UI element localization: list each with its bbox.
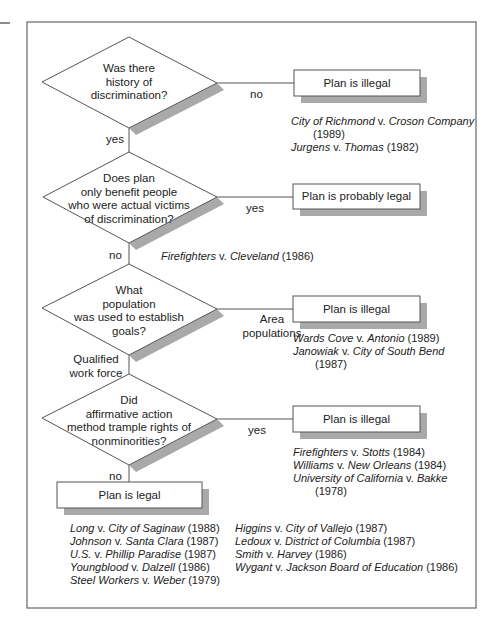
case-party-a: University of California: [293, 472, 403, 484]
case-citation: Janowiak v. City of South Bend: [293, 345, 444, 359]
outcome-2-label: Plan is probably legal: [293, 184, 420, 209]
case-party-b: Harvey: [277, 548, 312, 560]
decision-3-line: What: [59, 284, 199, 298]
case-party-b: District of Columbia: [285, 535, 380, 547]
case-year: (1987): [293, 358, 347, 372]
case-year: (1978): [293, 485, 347, 499]
case-versus: v.: [272, 522, 286, 534]
outcome-3-label: Plan is illegal: [293, 296, 420, 322]
case-party-a: Williams: [293, 459, 334, 471]
decision-2-text: Does plan only benefit people who were a…: [59, 172, 199, 226]
case-citation: City of Richmond v. Croson Company: [291, 115, 474, 129]
case-year: (1986): [175, 561, 210, 573]
decision-4-line: Did: [54, 394, 204, 408]
edge-label-d4-no: no: [109, 470, 122, 484]
outcome-1-label: Plan is illegal: [294, 70, 420, 96]
edge-label-d1-yes: yes: [106, 133, 124, 147]
case-party-b: City of Vallejo: [286, 522, 353, 534]
case-party-a: Wards Cove: [293, 332, 353, 344]
edge-label-d3-qualified-work-force: Qualified work force: [66, 353, 126, 380]
case-party-b: City of South Bend: [353, 345, 445, 357]
case-versus: v.: [91, 548, 105, 560]
edge-label-line: Qualified: [66, 353, 126, 367]
case-citation: Ledoux v. District of Columbia (1987): [235, 535, 415, 549]
case-citation: Steel Workers v. Weber (1979): [70, 574, 220, 588]
case-year: (1984): [390, 446, 425, 458]
case-year: (1987): [380, 535, 415, 547]
case-versus: v.: [139, 574, 153, 586]
case-party-a: U.S.: [70, 548, 91, 560]
case-citation: Long v. City of Saginaw (1988): [70, 522, 220, 536]
case-citation: U.S. v. Phillip Paradise (1987): [70, 548, 216, 562]
case-versus: v.: [112, 535, 126, 547]
case-year: (1982): [384, 141, 419, 153]
case-party-a: City of Richmond: [291, 115, 375, 127]
edge-label-d4-yes: yes: [248, 424, 266, 438]
case-citation: Higgins v. City of Vallejo (1987): [235, 522, 387, 536]
decision-1-text: Was there history of discrimination?: [69, 62, 189, 103]
edge-label-d2-no: no: [109, 249, 122, 263]
decision-3-line: goals?: [59, 325, 199, 339]
decision-3-line: was used to establish: [59, 311, 199, 325]
outcome-4-label: Plan is illegal: [293, 406, 420, 432]
case-party-b: New Orleans: [348, 459, 412, 471]
case-versus: v.: [339, 345, 353, 357]
case-versus: v.: [271, 535, 285, 547]
decision-1-line: discrimination?: [69, 89, 189, 103]
outcome-5-label: Plan is legal: [57, 482, 202, 508]
decision-2-line: who were actual victims: [59, 199, 199, 213]
case-year: (1987): [352, 522, 387, 534]
decision-3-line: population: [59, 298, 199, 312]
edge-label-line: work force: [66, 367, 126, 381]
case-party-b: Phillip Paradise: [105, 548, 181, 560]
case-year: (1986): [279, 250, 314, 262]
case-year: (1988): [185, 522, 220, 534]
case-versus: v.: [334, 459, 348, 471]
case-party-b: Cleveland: [230, 250, 279, 262]
case-party-b: Weber: [153, 574, 185, 586]
case-versus: v.: [94, 522, 108, 534]
case-party-a: Higgins: [235, 522, 272, 534]
case-year: (1986): [312, 548, 347, 560]
case-citation: Smith v. Harvey (1986): [235, 548, 347, 562]
flowchart-canvas: Was there history of discrimination? Doe…: [0, 0, 497, 633]
case-party-a: Smith: [235, 548, 263, 560]
case-party-a: Firefighters: [293, 446, 348, 458]
decision-4-text: Did affirmative action method trample ri…: [54, 394, 204, 448]
case-citation: Wards Cove v. Antonio (1989): [293, 332, 439, 346]
case-citation: Youngblood v. Dalzell (1986): [70, 561, 210, 575]
case-party-b: Jackson Board of Education: [286, 561, 423, 573]
case-party-b: Stotts: [362, 446, 390, 458]
case-party-a: Steel Workers: [70, 574, 139, 586]
case-party-b: Bakke: [417, 472, 448, 484]
case-party-a: Ledoux: [235, 535, 271, 547]
decision-2-line: only benefit people: [59, 186, 199, 200]
decision-2-line: Does plan: [59, 172, 199, 186]
case-citation: University of California v. Bakke: [293, 472, 447, 486]
case-versus: v.: [353, 332, 367, 344]
case-party-b: Santa Clara: [125, 535, 183, 547]
case-year: (1989): [405, 332, 440, 344]
decision-4-line: nonminorities?: [54, 435, 204, 449]
case-party-a: Jurgens: [291, 141, 330, 153]
case-versus: v.: [128, 561, 142, 573]
decision-2-line: of discrimination?: [59, 213, 199, 227]
case-year: (1987): [184, 535, 219, 547]
case-party-b: Antonio: [367, 332, 404, 344]
decision-1-line: Was there: [69, 62, 189, 76]
decision-1-line: history of: [69, 76, 189, 90]
case-party-a: Johnson: [70, 535, 112, 547]
case-party-a: Wygant: [235, 561, 272, 573]
case-year: (1986): [423, 561, 458, 573]
edge-label-d2-yes: yes: [246, 202, 264, 216]
case-citation: Wygant v. Jackson Board of Education (19…: [235, 561, 458, 575]
edge-label-d1-no: no: [250, 88, 263, 102]
case-party-b: Thomas: [344, 141, 384, 153]
case-party-b: Dalzell: [142, 561, 175, 573]
case-party-b: Croson Company: [389, 115, 475, 127]
case-party-a: Janowiak: [293, 345, 339, 357]
case-versus: v.: [375, 115, 389, 127]
case-year: (1984): [411, 459, 446, 471]
case-versus: v.: [216, 250, 230, 262]
decision-4-line: affirmative action: [54, 408, 204, 422]
